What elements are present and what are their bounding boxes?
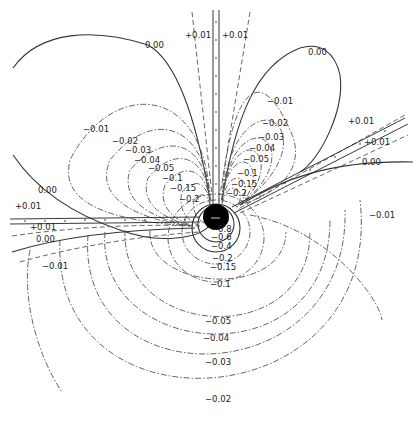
label: −0.04 xyxy=(203,333,229,343)
label: −0.15 xyxy=(210,262,236,272)
contour-diagram: +0.01 +0.01 0.00 0.00 0.00 0.00 0.00 +0.… xyxy=(0,0,413,422)
label: −0.05 xyxy=(148,163,174,173)
label: +0.01 xyxy=(30,222,56,232)
label: −0.03 xyxy=(258,132,284,142)
label: −0.4 xyxy=(211,241,232,251)
label: −0.02 xyxy=(262,118,288,128)
contour-plot: +0.01 +0.01 0.00 0.00 0.00 0.00 0.00 +0.… xyxy=(0,0,413,422)
label: 0.00 xyxy=(38,185,57,195)
label: 0.00 xyxy=(145,40,164,50)
label: −0.1 xyxy=(237,168,258,178)
label: 0.00 xyxy=(308,47,327,57)
label: −0.05 xyxy=(205,316,231,326)
label: −0.05 xyxy=(243,154,269,164)
label: +0.01 xyxy=(364,137,390,147)
label: −0.01 xyxy=(42,261,68,271)
label: −0.01 xyxy=(267,96,293,106)
label: −0.04 xyxy=(249,143,275,153)
label: −0.03 xyxy=(205,357,231,367)
label: −0.03 xyxy=(125,145,151,155)
label: +0.01 xyxy=(348,116,374,126)
label: −0.2 xyxy=(179,194,200,204)
zero-contour-right xyxy=(240,162,413,205)
label: +0.01 xyxy=(222,30,248,40)
negative-contours-upper-left xyxy=(69,104,211,226)
label: −0.15 xyxy=(170,183,196,193)
label: −0.1 xyxy=(162,173,183,183)
label: −0.02 xyxy=(205,394,231,404)
label: +0.01 xyxy=(185,30,211,40)
label: −0.1 xyxy=(210,279,231,289)
label: 0.00 xyxy=(36,234,55,244)
label: 0.00 xyxy=(362,157,381,167)
label: −0.2 xyxy=(226,188,247,198)
label: +0.01 xyxy=(15,201,41,211)
vertical-rail xyxy=(213,10,219,205)
label: −0.01 xyxy=(369,210,395,220)
label: −0.01 xyxy=(83,124,109,134)
